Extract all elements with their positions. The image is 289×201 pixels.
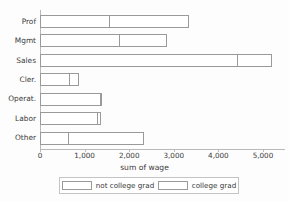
category-label: Other: [15, 135, 36, 142]
stacked-bar: [40, 34, 167, 47]
bar-segment[interactable]: [40, 15, 110, 28]
legend-swatch-icon: [158, 181, 188, 190]
legend-item-college-grad[interactable]: college grad: [158, 181, 237, 190]
x-axis-tick-label: 2,000: [119, 152, 140, 159]
plot-area: ProfMgmtSalesCler.Operat.LaborOther: [40, 12, 283, 148]
legend-label: college grad: [192, 182, 237, 189]
bar-segment[interactable]: [40, 73, 70, 86]
x-axis-tick-label: 1,000: [74, 152, 95, 159]
x-axis-tick-label: 0: [38, 152, 43, 159]
stacked-bar: [40, 132, 144, 145]
legend-item-not-college-grad[interactable]: not college grad: [62, 181, 155, 190]
stacked-bar: [40, 112, 101, 125]
stacked-bar: [40, 54, 272, 67]
category-label: Prof: [22, 18, 36, 25]
bar-segment[interactable]: [40, 93, 101, 106]
bar-segment[interactable]: [109, 15, 189, 28]
bar-segment[interactable]: [237, 54, 272, 67]
chart-legend: not college grad college grad: [59, 177, 239, 194]
stacked-bar: [40, 15, 189, 28]
bar-segment[interactable]: [40, 132, 69, 145]
legend-swatch-icon: [62, 181, 92, 190]
bar-segment[interactable]: [40, 54, 238, 67]
x-axis-title: sum of wage: [0, 163, 289, 172]
bar-segment[interactable]: [40, 34, 120, 47]
x-axis-line: [40, 149, 285, 150]
x-axis-tick-label: 4,000: [208, 152, 229, 159]
bar-segment[interactable]: [97, 112, 102, 125]
category-label: Sales: [16, 57, 36, 64]
stacked-bar: [40, 73, 79, 86]
category-label: Mgmt: [15, 37, 36, 44]
stacked-bar: [40, 93, 102, 106]
bar-segment[interactable]: [40, 112, 98, 125]
category-label: Labor: [15, 115, 36, 122]
category-label: Cler.: [20, 76, 36, 83]
x-axis-tick-label: 5,000: [253, 152, 274, 159]
bar-segment[interactable]: [119, 34, 167, 47]
bar-chart: ProfMgmtSalesCler.Operat.LaborOther sum …: [0, 0, 289, 201]
category-label: Operat.: [8, 96, 36, 103]
bar-segment[interactable]: [100, 93, 102, 106]
bar-segment[interactable]: [69, 73, 79, 86]
legend-label: not college grad: [96, 182, 155, 189]
x-axis-tick-label: 3,000: [163, 152, 184, 159]
bar-segment[interactable]: [68, 132, 144, 145]
